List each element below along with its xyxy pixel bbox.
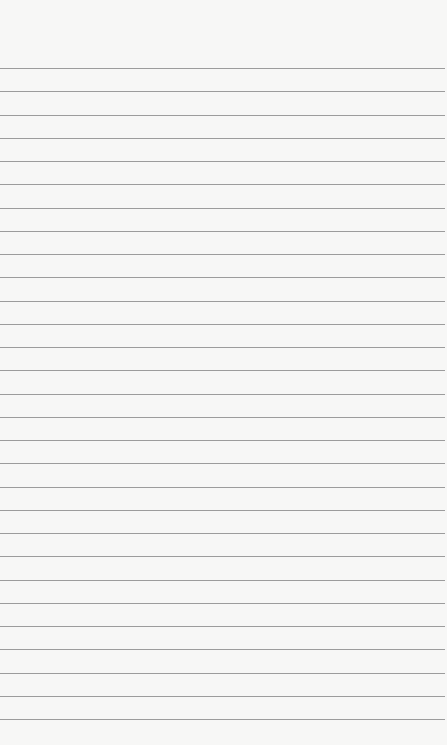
ruled-line — [0, 231, 445, 232]
ruled-line — [0, 440, 445, 441]
ruled-line — [0, 91, 445, 92]
ruled-line — [0, 719, 445, 720]
ruled-line — [0, 277, 445, 278]
ruled-paper — [0, 0, 447, 745]
ruled-line — [0, 115, 445, 116]
ruled-line — [0, 184, 445, 185]
ruled-line — [0, 580, 445, 581]
ruled-line — [0, 161, 445, 162]
ruled-line — [0, 138, 445, 139]
ruled-line — [0, 463, 445, 464]
ruled-line — [0, 487, 445, 488]
ruled-line — [0, 394, 445, 395]
ruled-line — [0, 208, 445, 209]
ruled-line — [0, 510, 445, 511]
ruled-line — [0, 301, 445, 302]
ruled-line — [0, 347, 445, 348]
ruled-line — [0, 417, 445, 418]
ruled-line — [0, 649, 445, 650]
ruled-line — [0, 556, 445, 557]
ruled-line — [0, 626, 445, 627]
ruled-line — [0, 696, 445, 697]
ruled-line — [0, 370, 445, 371]
ruled-line — [0, 673, 445, 674]
ruled-line — [0, 254, 445, 255]
ruled-line — [0, 68, 445, 69]
ruled-line — [0, 603, 445, 604]
ruled-line — [0, 533, 445, 534]
ruled-line — [0, 324, 445, 325]
